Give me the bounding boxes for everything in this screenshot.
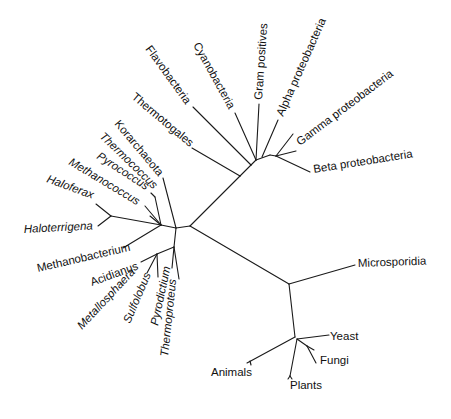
label-haloterrigena: Haloterrigena bbox=[23, 219, 93, 235]
branches-bacteria bbox=[192, 104, 310, 176]
label-cyanobacteria: Cyanobacteria bbox=[191, 40, 238, 111]
label-yeast: Yeast bbox=[330, 330, 359, 342]
label-plants: Plants bbox=[290, 379, 322, 391]
label-flavobacteria: Flavobacteria bbox=[143, 43, 194, 106]
label-animals: Animals bbox=[211, 366, 252, 378]
label-fungi: Fungi bbox=[320, 354, 349, 366]
tree-svg: Flavobacteria Cyanobacteria Gram positiv… bbox=[0, 0, 451, 419]
label-beta-proteobacteria: Beta proteobacteria bbox=[312, 147, 414, 175]
label-microsporidia: Microsporidia bbox=[358, 255, 427, 269]
label-gamma-proteobacteria: Gamma proteobacteria bbox=[294, 67, 396, 148]
branches-core bbox=[176, 176, 289, 284]
label-gram-positives: Gram positives bbox=[252, 23, 269, 101]
phylogenetic-tree-diagram: Flavobacteria Cyanobacteria Gram positiv… bbox=[0, 0, 451, 419]
label-alpha-proteobacteria: Alpha proteobacteria bbox=[274, 15, 328, 117]
